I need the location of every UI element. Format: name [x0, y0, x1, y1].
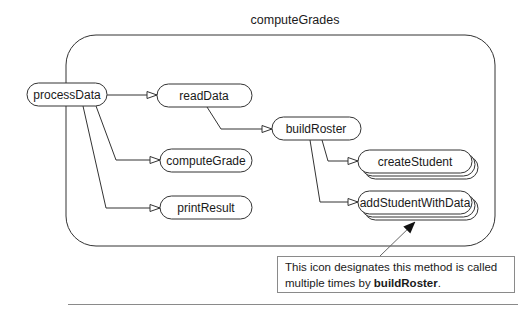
node-label: readData	[179, 89, 229, 103]
callout-note: This icon designates this method is call…	[277, 256, 515, 293]
horizontal-rule	[68, 304, 518, 305]
node-label: addStudentWithData	[360, 196, 471, 210]
callout-pointer-arrow	[380, 223, 414, 256]
node-printResult[interactable]: printResult	[160, 196, 252, 219]
edge-readData-buildRoster	[207, 107, 272, 129]
edges	[83, 95, 414, 256]
callout-bold: buildRoster	[374, 277, 438, 289]
edge-processData-printResult	[83, 106, 160, 208]
node-label: printResult	[177, 201, 235, 215]
edge-buildRoster-addStudentWithData	[310, 140, 358, 202]
node-buildRoster[interactable]: buildRoster	[272, 117, 361, 140]
node-label: processData	[33, 88, 101, 102]
edge-buildRoster-createStudent	[322, 140, 358, 161]
node-readData[interactable]: readData	[157, 84, 252, 107]
node-createStudent[interactable]: createStudent	[358, 150, 478, 179]
node-label: buildRoster	[286, 122, 347, 136]
callout-text-end: .	[438, 277, 441, 289]
node-label: computeGrade	[166, 154, 246, 168]
node-computeGrade[interactable]: computeGrade	[160, 149, 252, 172]
node-label: createStudent	[378, 155, 453, 169]
node-addStudentWithData[interactable]: addStudentWithData	[358, 191, 478, 220]
edge-processData-computeGrade	[96, 106, 160, 160]
diagram-title: computeGrades	[251, 13, 340, 27]
node-processData[interactable]: processData	[27, 83, 107, 106]
